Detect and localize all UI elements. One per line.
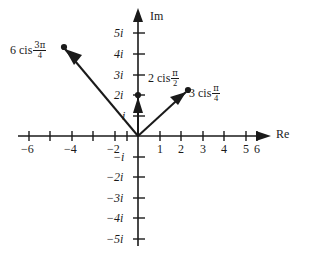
fraction-denominator: 2 xyxy=(171,79,179,88)
y-tick-label-neg-2i: −2i xyxy=(106,171,123,183)
x-tick-label-5: 5 xyxy=(243,143,249,155)
fraction-denominator: 4 xyxy=(33,51,46,60)
annotation-2-cis-pi-over-2-prefix: 2 cis xyxy=(148,71,170,85)
y-tick-label-2i: 2i xyxy=(114,89,123,101)
y-tick-label-i: i xyxy=(122,110,125,122)
y-tick-label-neg-3i: −3i xyxy=(106,192,123,204)
fraction-pi-over-2: π2 xyxy=(171,69,179,87)
x-tick-label-4: 4 xyxy=(221,143,227,155)
x-tick-label-neg4: −4 xyxy=(64,143,77,155)
x-tick-label-1: 1 xyxy=(157,143,163,155)
x-tick-label-6: 6 xyxy=(254,143,260,155)
annotation-3-cis-pi-over-4-prefix: 3 cis xyxy=(189,86,211,100)
annotation-6-cis-3pi-over-4: 6 cis3π4 xyxy=(10,41,46,59)
x-tick-label-3: 3 xyxy=(200,143,206,155)
x-tick-label-2: 2 xyxy=(178,143,184,155)
annotation-6-cis-3pi-over-4-prefix: 6 cis xyxy=(10,43,32,57)
real-axis-arrowhead xyxy=(256,131,271,141)
complex-plane-plot xyxy=(0,0,314,258)
vector-6-cis-3pi-over-4 xyxy=(61,44,138,136)
point-marker-2-cis-pi-over-2 xyxy=(135,92,141,98)
y-tick-label-4i: 4i xyxy=(114,48,123,60)
y-tick-label-neg-i: −i xyxy=(113,151,124,163)
y-tick-label-neg-5i: −5i xyxy=(106,233,123,245)
real-axis-label: Re xyxy=(276,128,289,140)
x-tick-label-neg6: −6 xyxy=(21,143,34,155)
imaginary-axis-arrowhead xyxy=(133,8,143,22)
y-tick-label-5i: 5i xyxy=(114,27,123,39)
annotation-3-cis-pi-over-4: 3 cisπ4 xyxy=(189,84,220,102)
fraction-denominator: 4 xyxy=(212,94,220,103)
point-marker-6-cis-3pi-over-4 xyxy=(61,44,67,50)
vector-2-cis-pi-over-2 xyxy=(133,92,143,136)
imaginary-axis-label: Im xyxy=(150,10,163,22)
fraction-pi-over-4: π4 xyxy=(212,84,220,102)
vector-3-cis-pi-over-4 xyxy=(138,87,191,136)
fraction-3pi-over-4: 3π4 xyxy=(33,41,46,59)
y-tick-label-neg-4i: −4i xyxy=(106,212,123,224)
complex-plane-figure: Im Re −6 −4 −2 1 2 3 4 5 6 5i 4i 3i 2i i… xyxy=(0,0,314,258)
annotation-2-cis-pi-over-2: 2 cisπ2 xyxy=(148,69,179,87)
y-tick-label-3i: 3i xyxy=(114,69,123,81)
